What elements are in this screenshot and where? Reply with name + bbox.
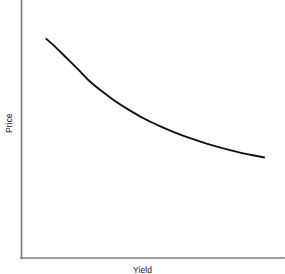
chart-canvas <box>0 0 285 274</box>
plot-background <box>0 0 285 274</box>
price-yield-chart: Price Yield <box>0 0 285 274</box>
x-axis-label: Yield <box>0 265 285 274</box>
y-axis-label: Price <box>4 103 14 143</box>
